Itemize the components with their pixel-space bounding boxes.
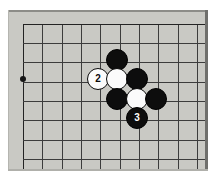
stone-black-right-lower — [145, 88, 167, 110]
move-number-3: 3 — [134, 113, 140, 123]
move-number-2: 2 — [95, 74, 101, 84]
stone-black-right-upper — [126, 68, 148, 90]
stone-black-left-lower — [106, 88, 128, 110]
stone-layer: 23 — [0, 0, 217, 172]
stone-black-3: 3 — [126, 107, 148, 129]
hoshi-left-star-point — [20, 76, 26, 82]
stone-white-center — [106, 68, 128, 90]
go-diagram: 23 — [0, 0, 217, 172]
